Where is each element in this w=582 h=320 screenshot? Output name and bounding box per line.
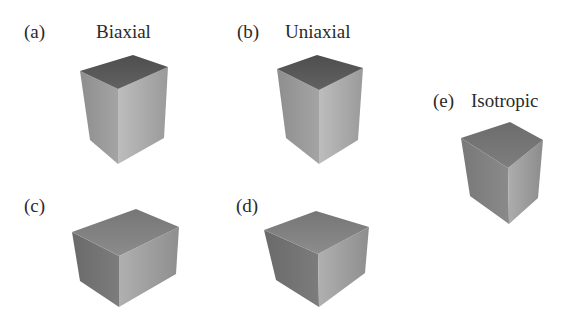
cube-illustrations xyxy=(0,0,582,320)
cube-uniaxial xyxy=(277,55,363,164)
cube-isotropic xyxy=(461,122,543,224)
cube-d xyxy=(264,211,369,307)
cube-biaxial xyxy=(80,55,168,164)
cube-c xyxy=(72,209,179,307)
